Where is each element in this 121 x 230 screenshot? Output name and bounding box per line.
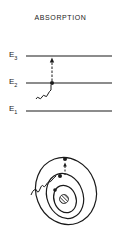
atom-photon-wave-icon bbox=[31, 176, 56, 195]
arrowhead-icon bbox=[50, 58, 54, 63]
electron-dot bbox=[50, 81, 54, 85]
atom-model bbox=[26, 149, 106, 230]
photon-wave-icon bbox=[36, 85, 51, 99]
absorption-diagram bbox=[0, 0, 121, 230]
electron-middle bbox=[58, 174, 62, 178]
atom-arrowhead-icon bbox=[63, 163, 67, 167]
electron-inner bbox=[53, 188, 57, 192]
electron-outer bbox=[63, 157, 67, 161]
nucleus-icon bbox=[60, 195, 69, 204]
